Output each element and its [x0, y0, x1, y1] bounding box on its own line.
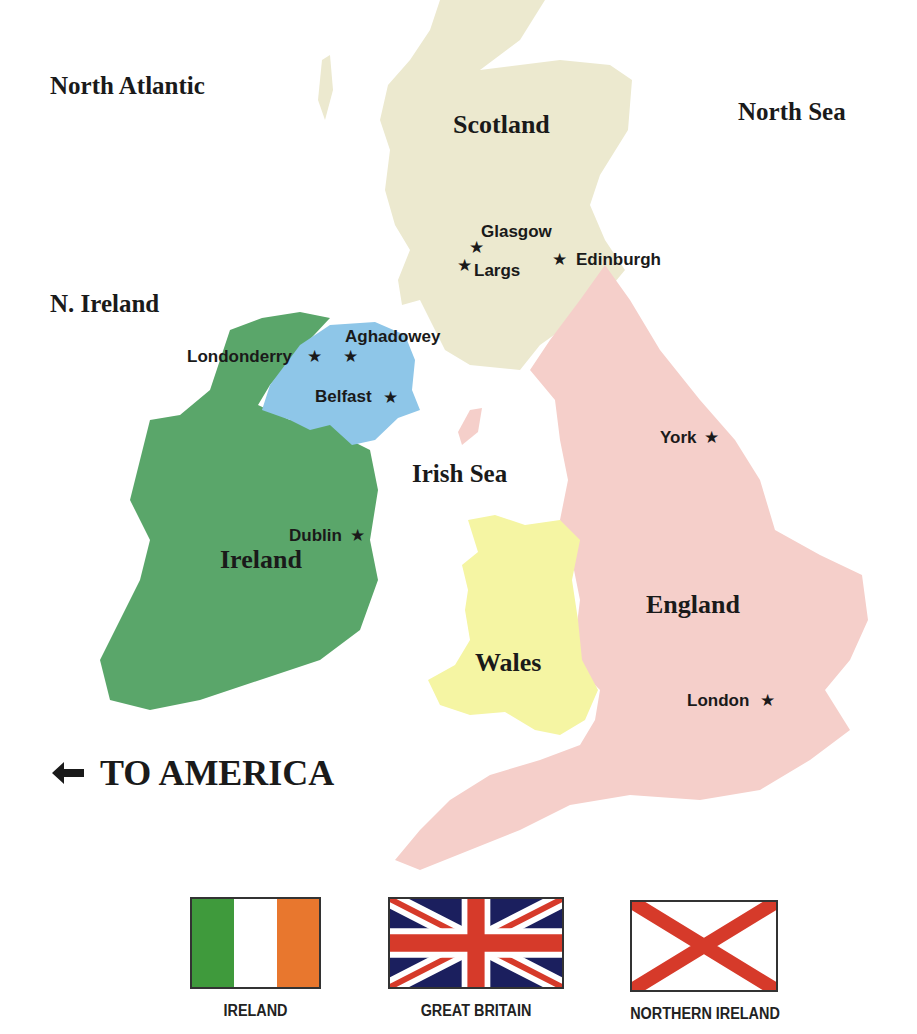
- city-york: York: [660, 428, 697, 448]
- star-icon: ★: [307, 346, 322, 366]
- star-icon: ★: [704, 427, 719, 447]
- arrow-left-icon: [50, 760, 86, 786]
- wales-label: Wales: [475, 648, 541, 678]
- star-icon: ★: [760, 690, 775, 710]
- hebrides-island: [318, 55, 333, 120]
- city-dublin: Dublin: [289, 526, 342, 546]
- northern-ireland-flag: [630, 900, 778, 992]
- ireland-flag: [190, 897, 321, 989]
- irish-sea-label: Irish Sea: [412, 460, 507, 488]
- city-london: London: [687, 691, 749, 711]
- city-edinburgh: Edinburgh: [576, 250, 661, 270]
- to-america-label: TO AMERICA: [50, 752, 334, 794]
- ireland-label: Ireland: [220, 545, 302, 575]
- great-britain-flag: [388, 897, 564, 989]
- england-label: England: [646, 590, 740, 620]
- city-londonderry: Londonderry: [187, 347, 292, 367]
- ireland-flag-caption: IRELAND: [197, 1002, 315, 1020]
- north-atlantic-label: North Atlantic: [50, 72, 205, 100]
- n-ireland-label: N. Ireland: [50, 290, 159, 318]
- star-icon: ★: [469, 237, 484, 257]
- city-belfast: Belfast: [315, 387, 372, 407]
- star-icon: ★: [457, 255, 472, 275]
- map-canvas: [0, 0, 917, 1034]
- star-icon: ★: [343, 346, 358, 366]
- city-aghadowey: Aghadowey: [345, 327, 440, 347]
- star-icon: ★: [350, 525, 365, 545]
- northern-ireland-flag-caption: NORTHERN IRELAND: [620, 1005, 791, 1023]
- star-icon: ★: [383, 387, 398, 407]
- star-icon: ★: [552, 249, 567, 269]
- city-largs: Largs: [474, 261, 520, 281]
- city-glasgow: Glasgow: [481, 222, 552, 242]
- great-britain-flag-caption: GREAT BRITAIN: [397, 1002, 555, 1020]
- north-sea-label: North Sea: [738, 98, 846, 126]
- scotland-label: Scotland: [453, 110, 550, 140]
- wales-landmass: [428, 515, 598, 735]
- isle-of-man: [458, 408, 482, 445]
- to-america-text: TO AMERICA: [100, 752, 334, 794]
